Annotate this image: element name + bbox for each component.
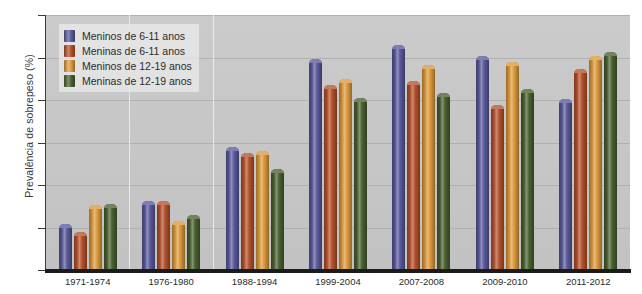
- bar: [74, 232, 87, 270]
- bar-group: [476, 56, 534, 270]
- overweight-prevalence-bar-chart: Prevalência de sobrepeso (%) 04812162024…: [0, 0, 642, 294]
- bar: [506, 62, 519, 270]
- bar: [559, 99, 572, 270]
- bar: [187, 215, 200, 270]
- legend-label: Meninas de 6-11 anos: [82, 45, 185, 57]
- bar: [604, 52, 617, 270]
- bar-cap: [172, 221, 185, 225]
- bar: [339, 79, 352, 270]
- legend-swatch: [64, 60, 75, 72]
- legend: Meninos de 6-11 anosMeninas de 6-11 anos…: [59, 24, 199, 92]
- vertical-divider: [213, 15, 214, 270]
- bar: [172, 221, 185, 270]
- x-tick-label: 1976-1980: [129, 276, 212, 287]
- bar-cap: [324, 85, 337, 89]
- bar-cap: [521, 89, 534, 93]
- bar: [226, 147, 239, 270]
- bar-group: [559, 52, 617, 270]
- bar-cap: [157, 201, 170, 205]
- bar-cap: [476, 56, 489, 60]
- bar: [407, 81, 420, 270]
- legend-label: Meninos de 12-19 anos: [82, 60, 192, 72]
- bar-cap: [574, 69, 587, 73]
- bar-cap: [422, 65, 435, 69]
- bar: [574, 69, 587, 270]
- bar: [104, 204, 117, 270]
- legend-label: Meninas de 12-19 anos: [82, 75, 192, 87]
- bar-group: [59, 204, 117, 270]
- bar: [354, 98, 367, 270]
- bar-cap: [271, 169, 284, 173]
- bar: [476, 56, 489, 270]
- bar: [309, 59, 322, 270]
- legend-swatch: [64, 30, 75, 42]
- bar-cap: [392, 45, 405, 49]
- bar-cap: [104, 204, 117, 208]
- bar: [142, 201, 155, 270]
- bar: [256, 151, 269, 270]
- y-axis-title: Prevalência de sobrepeso (%): [23, 1, 35, 251]
- legend-swatch: [64, 45, 75, 57]
- bar-cap: [256, 151, 269, 155]
- bar-cap: [339, 79, 352, 83]
- bar: [324, 85, 337, 270]
- bar-cap: [187, 215, 200, 219]
- bar-cap: [89, 205, 102, 209]
- bar-cap: [74, 232, 87, 236]
- bar-group: [142, 201, 200, 270]
- bar-cap: [142, 201, 155, 205]
- bar-cap: [354, 98, 367, 102]
- legend-item[interactable]: Meninos de 12-19 anos: [64, 58, 192, 73]
- bar: [422, 65, 435, 270]
- bar-cap: [506, 62, 519, 66]
- x-tick-label: 1971-1974: [46, 276, 129, 287]
- bar-cap: [241, 153, 254, 157]
- bar-group: [309, 59, 367, 270]
- bar-cap: [491, 105, 504, 109]
- bar: [89, 205, 102, 270]
- bar-cap: [309, 59, 322, 63]
- x-axis-line: [45, 269, 631, 273]
- legend-item[interactable]: Meninas de 12-19 anos: [64, 73, 192, 88]
- legend-item[interactable]: Meninos de 6-11 anos: [64, 28, 192, 43]
- legend-swatch: [64, 75, 75, 87]
- bar-cap: [559, 99, 572, 103]
- y-axis-line: [45, 15, 46, 271]
- bar-group: [392, 45, 450, 270]
- bar-cap: [604, 52, 617, 56]
- bar: [392, 45, 405, 270]
- x-tick-label: 2009-2010: [463, 276, 546, 287]
- bar: [241, 153, 254, 270]
- bar: [521, 89, 534, 270]
- x-tick-label: 1988-1994: [213, 276, 296, 287]
- bar-cap: [226, 147, 239, 151]
- bar-group: [226, 147, 284, 270]
- bar: [271, 169, 284, 270]
- x-tick-label: 2011-2012: [547, 276, 630, 287]
- bar-cap: [59, 224, 72, 228]
- x-tick-label: 1999-2004: [296, 276, 379, 287]
- bar-cap: [589, 56, 602, 60]
- x-tick-label: 2007-2008: [380, 276, 463, 287]
- bar: [491, 105, 504, 270]
- legend-label: Meninos de 6-11 anos: [82, 30, 185, 42]
- bar-cap: [407, 81, 420, 85]
- bar-cap: [437, 93, 450, 97]
- bar: [157, 201, 170, 270]
- gridline: [46, 15, 630, 16]
- legend-item[interactable]: Meninas de 6-11 anos: [64, 43, 192, 58]
- bar: [437, 93, 450, 270]
- bar: [589, 56, 602, 270]
- bar: [59, 224, 72, 270]
